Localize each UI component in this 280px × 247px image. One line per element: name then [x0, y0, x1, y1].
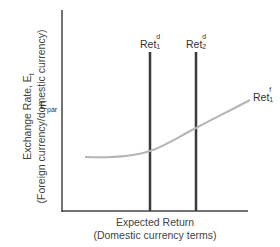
e-par-label: Epar [40, 100, 57, 111]
ret-f1-label: Retf1 [253, 91, 275, 103]
ret-d2-label: Retd2 [186, 38, 208, 50]
y-axis-label: Exchange Rate, Et (Foreign currency/dome… [21, 19, 48, 215]
ret-f1-curve [85, 100, 250, 157]
x-axis-label: Expected Return (Domestic currency terms… [62, 216, 248, 242]
ret-d1-label: Retd1 [140, 38, 162, 50]
